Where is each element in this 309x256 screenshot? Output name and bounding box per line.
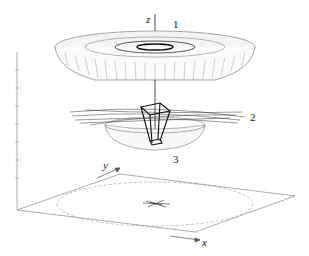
label-surface-1: 1 <box>173 18 179 30</box>
z-axis-label: z <box>146 13 150 25</box>
surface-1 <box>55 31 255 81</box>
diagram-canvas <box>0 0 309 256</box>
label-surface-2: 2 <box>250 111 256 123</box>
floor-center-mark <box>143 200 170 207</box>
y-axis-label: y <box>103 159 108 171</box>
label-surface-3: 3 <box>173 153 179 165</box>
x-axis-label: x <box>202 236 207 248</box>
